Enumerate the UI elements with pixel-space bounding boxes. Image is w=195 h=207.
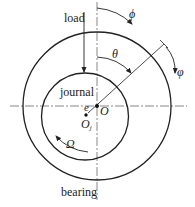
phi-upper-label: ϕ (129, 7, 135, 21)
theta-label: θ (112, 47, 118, 61)
journal-center-label: Oj (81, 117, 92, 132)
bearing-center-point (95, 104, 99, 108)
journal-label: journal (59, 85, 95, 99)
rotation-label: Ω (66, 137, 75, 151)
bearing-center-label: O (100, 104, 109, 118)
journal-bearing-diagram: load journal bearing ϕ θ φ e O Oj Ω (0, 0, 195, 207)
bearing-label: bearing (61, 185, 97, 199)
phi-lower-arc-arrow (166, 47, 175, 73)
eccentricity-label: e (84, 101, 89, 113)
phi-upper-arc-arrow (97, 8, 132, 24)
load-label: load (64, 11, 85, 25)
phi-lower-label: φ (177, 65, 184, 79)
